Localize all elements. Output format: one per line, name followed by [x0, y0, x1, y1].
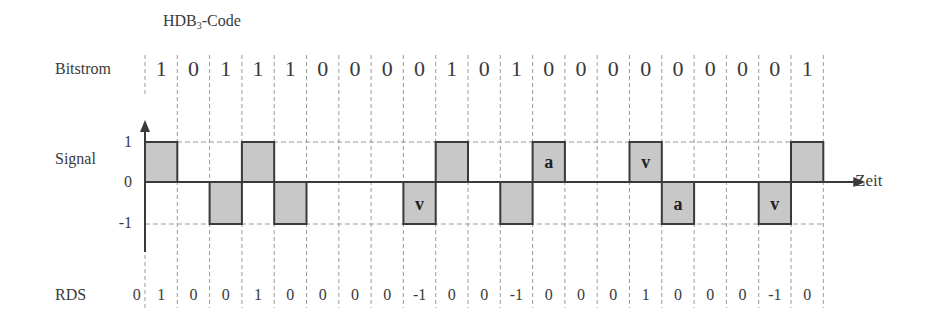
rds-value: 1	[630, 286, 662, 304]
pulse-marker-a: a	[673, 194, 682, 214]
signal-pulse	[436, 142, 468, 182]
bit-value: 0	[597, 56, 629, 82]
bit-value: 1	[274, 56, 306, 82]
signal-pulse	[274, 182, 306, 224]
signal-plot: vavav	[0, 0, 939, 335]
rds-value: -1	[759, 286, 791, 304]
rds-value: 1	[242, 286, 274, 304]
bit-value: 0	[339, 56, 371, 82]
bit-value: 0	[630, 56, 662, 82]
bit-value: 0	[371, 56, 403, 82]
bit-value: 1	[791, 56, 823, 82]
pulse-marker-v: v	[770, 194, 779, 214]
rds-value: 0	[565, 286, 597, 304]
bit-value: 0	[759, 56, 791, 82]
bit-value: 1	[145, 56, 177, 82]
rds-value: 1	[145, 286, 177, 304]
rds-value: 0	[726, 286, 758, 304]
rds-value: 0	[791, 286, 823, 304]
rds-value: 0	[694, 286, 726, 304]
pulse-marker-v: v	[415, 194, 424, 214]
hdb3-diagram: HDB3-Code Bitstrom Signal RDS 1 0 -1 Zei…	[0, 0, 939, 335]
bit-value: 0	[533, 56, 565, 82]
pulse-marker-v: v	[641, 152, 650, 172]
time-axis-arrow-icon	[853, 177, 865, 187]
rds-value: 0	[371, 286, 403, 304]
rds-value: 0	[339, 286, 371, 304]
signal-pulse	[210, 182, 242, 224]
bit-value: 0	[726, 56, 758, 82]
bit-value: 0	[565, 56, 597, 82]
bit-value: 1	[210, 56, 242, 82]
signal-pulse	[145, 142, 177, 182]
bit-value: 0	[694, 56, 726, 82]
bit-value: 1	[436, 56, 468, 82]
signal-pulse	[242, 142, 274, 182]
rds-value: 0	[274, 286, 306, 304]
rds-value: 0	[436, 286, 468, 304]
bit-value: 0	[468, 56, 500, 82]
bit-value: 1	[500, 56, 532, 82]
rds-value: 0	[468, 286, 500, 304]
signal-pulse	[791, 142, 823, 182]
rds-value: -1	[500, 286, 532, 304]
rds-value: 0	[533, 286, 565, 304]
rds-value: 0	[177, 286, 209, 304]
rds-value: -1	[403, 286, 435, 304]
rds-value: 0	[662, 286, 694, 304]
signal-axis-arrow-icon	[140, 120, 150, 132]
rds-value: 0	[210, 286, 242, 304]
rds-value: 0	[597, 286, 629, 304]
pulse-marker-a: a	[544, 152, 553, 172]
bit-value: 0	[177, 56, 209, 82]
rds-value: 0	[307, 286, 339, 304]
bit-value: 0	[403, 56, 435, 82]
bit-value: 0	[307, 56, 339, 82]
signal-pulse	[500, 182, 532, 224]
bit-value: 1	[242, 56, 274, 82]
bit-value: 0	[662, 56, 694, 82]
